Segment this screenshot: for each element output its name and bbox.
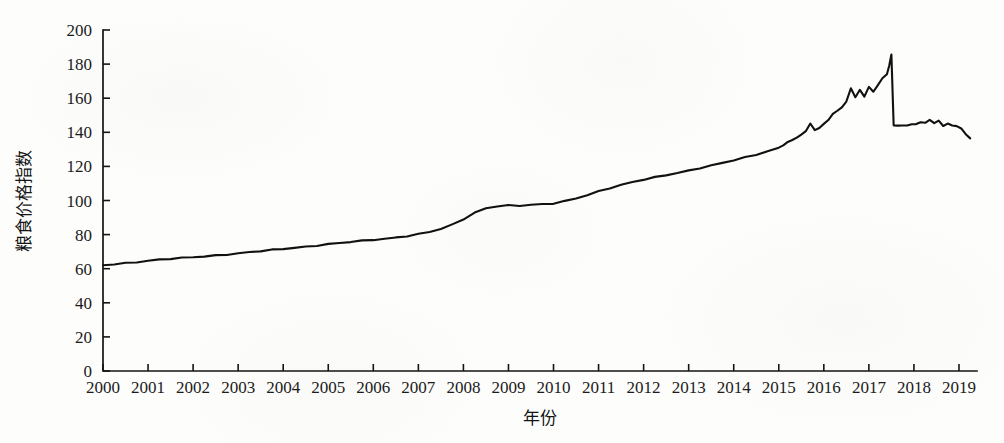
y-axis-tick-label: 60: [75, 260, 92, 279]
x-axis-tick-label: 2010: [537, 378, 571, 397]
chart-figure: 020406080100120140160180200 200020012002…: [0, 0, 1004, 443]
x-axis-tick-label: 2014: [717, 378, 752, 397]
y-axis-title: 粮食价格指数: [14, 150, 34, 252]
x-axis-tick-label: 2017: [852, 378, 887, 397]
data-series-group: [103, 54, 970, 265]
x-axis-tick-group: 2000200120022003200420052006200720082009…: [86, 364, 976, 397]
y-axis-tick-label: 120: [67, 157, 93, 176]
x-axis-tick-label: 2004: [266, 378, 301, 397]
x-axis-tick-label: 2005: [311, 378, 345, 397]
y-axis-tick-label: 180: [67, 55, 93, 74]
x-axis-tick-label: 2012: [627, 378, 661, 397]
x-axis-tick-label: 2008: [446, 378, 480, 397]
x-axis-tick-label: 2000: [86, 378, 120, 397]
x-axis-tick-label: 2015: [762, 378, 796, 397]
y-axis-tick-label: 160: [67, 89, 93, 108]
x-axis-tick-label: 2016: [807, 378, 841, 397]
axis-group: [103, 30, 977, 371]
axis-spines: [103, 30, 977, 371]
food-price-index-line-chart: 020406080100120140160180200 200020012002…: [0, 0, 1004, 443]
x-axis-tick-label: 2018: [897, 378, 931, 397]
y-axis-tick-label: 140: [67, 123, 93, 142]
data-line-food-price-index: [103, 54, 970, 265]
y-axis-tick-label: 100: [67, 192, 93, 211]
x-axis-tick-label: 2011: [582, 378, 615, 397]
x-axis-tick-label: 2003: [221, 378, 255, 397]
x-axis-title: 年份: [523, 408, 557, 428]
x-axis-tick-label: 2006: [356, 378, 390, 397]
x-axis-tick-label: 2013: [672, 378, 706, 397]
y-axis-tick-label: 40: [75, 294, 92, 313]
x-axis-tick-label: 2019: [942, 378, 976, 397]
y-axis-tick-label: 200: [67, 21, 93, 40]
x-axis-tick-label: 2002: [176, 378, 210, 397]
x-axis-tick-label: 2001: [131, 378, 165, 397]
y-axis-tick-label: 80: [75, 226, 92, 245]
x-axis-tick-label: 2007: [401, 378, 436, 397]
x-axis-tick-label: 2009: [491, 378, 525, 397]
y-axis-tick-label: 20: [75, 328, 92, 347]
